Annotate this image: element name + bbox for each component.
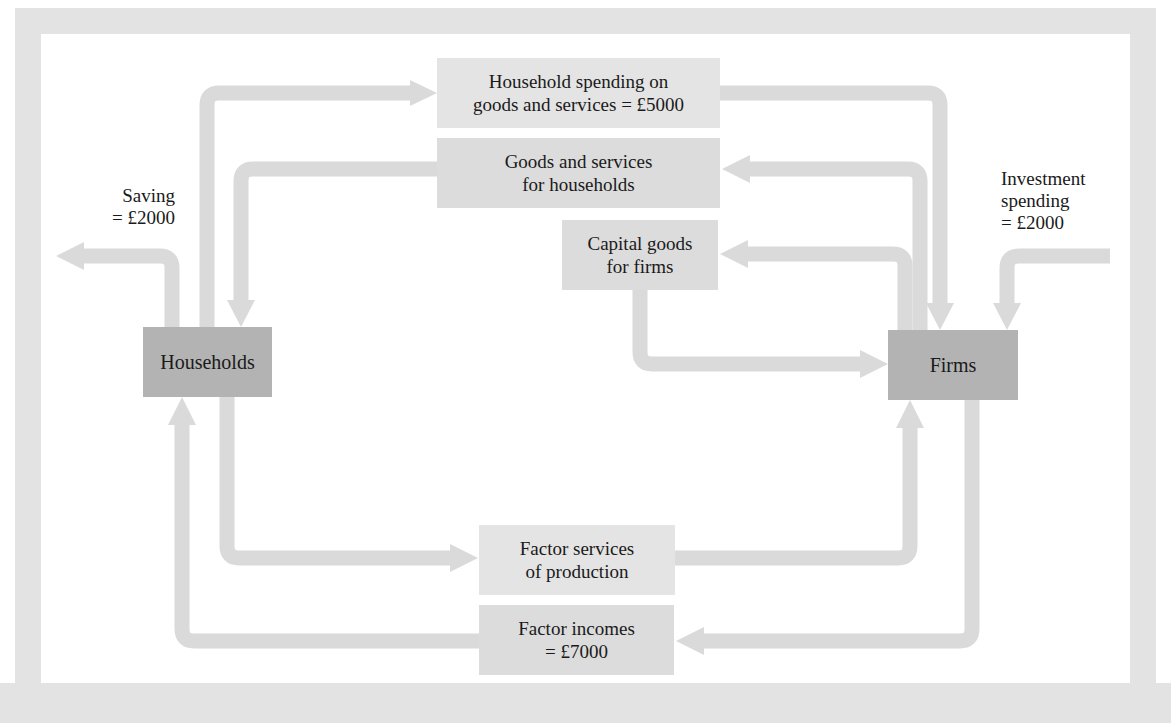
saving-line2: = £2000: [100, 207, 175, 229]
arrow-factor-services-in: [675, 426, 910, 558]
arrowhead-icon: [676, 627, 704, 655]
firms-label: Firms: [930, 354, 977, 377]
arrow-capital-goods-out: [746, 254, 905, 330]
arrow-investment-injection: [1007, 256, 1110, 305]
investment-label: Investment spending = £2000: [1001, 168, 1121, 234]
arrowhead-icon: [720, 240, 748, 268]
arrow-capital-goods-in: [640, 290, 862, 364]
factor-incomes-line1: Factor incomes: [518, 617, 635, 640]
capital-goods-line2: for firms: [587, 255, 692, 278]
arrowhead-icon: [860, 350, 888, 378]
household-spending-line1: Household spending on: [473, 70, 684, 93]
capital-goods-box: Capital goods for firms: [562, 220, 718, 290]
goods-services-line2: for households: [505, 173, 653, 196]
factor-incomes-line2: = £7000: [518, 640, 635, 663]
households-label: Households: [160, 351, 254, 374]
goods-services-line1: Goods and services: [505, 150, 653, 173]
investment-line2: spending: [1001, 190, 1121, 212]
saving-label: Saving = £2000: [100, 185, 175, 229]
factor-services-line1: Factor services: [520, 537, 634, 560]
capital-goods-line1: Capital goods: [587, 232, 692, 255]
arrow-factor-services-out: [227, 397, 452, 558]
goods-services-box: Goods and services for households: [437, 138, 720, 208]
arrowhead-icon: [450, 544, 478, 572]
arrowhead-icon: [56, 242, 84, 270]
arrow-goods-services-in: [241, 169, 437, 302]
factor-incomes-box: Factor incomes = £7000: [479, 605, 674, 675]
households-box: Households: [143, 327, 272, 397]
arrowhead-icon: [896, 400, 924, 428]
saving-line1: Saving: [100, 185, 175, 207]
arrowhead-icon: [926, 303, 954, 330]
arrowhead-icon: [993, 303, 1021, 330]
arrowhead-icon: [722, 155, 750, 183]
arrowhead-icon: [410, 80, 437, 106]
factor-services-box: Factor services of production: [479, 525, 675, 595]
firms-box: Firms: [888, 330, 1018, 400]
arrowhead-icon: [227, 300, 255, 327]
factor-services-line2: of production: [520, 560, 634, 583]
investment-line3: = £2000: [1001, 212, 1121, 234]
arrowhead-icon: [168, 397, 196, 425]
household-spending-line2: goods and services = £5000: [473, 93, 684, 116]
arrow-saving-leakage: [82, 256, 172, 327]
arrow-factor-incomes-out: [702, 400, 972, 641]
investment-line1: Investment: [1001, 168, 1121, 190]
household-spending-box: Household spending on goods and services…: [437, 58, 720, 128]
